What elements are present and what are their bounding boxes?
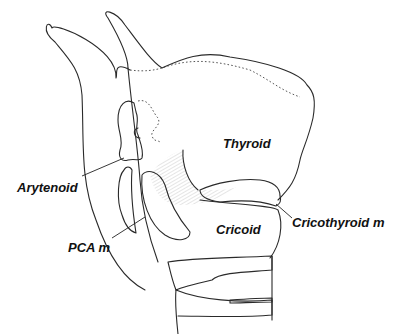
arytenoid-dotted	[138, 101, 160, 142]
label-cricoid: Cricoid	[216, 222, 261, 237]
label-pca: PCA m	[68, 240, 110, 255]
trachea-lower	[176, 290, 178, 334]
fan-shaded-region	[150, 150, 240, 205]
trachea-upper-ring	[168, 256, 272, 290]
thyroid-lamina-edge	[128, 68, 158, 262]
pca-muscle	[118, 167, 136, 233]
label-arytenoid: Arytenoid	[17, 180, 78, 195]
thyroid-cartilage-outline	[106, 12, 315, 200]
pca-leader	[112, 217, 145, 238]
label-thyroid: Thyroid	[223, 136, 271, 151]
larynx-diagram	[0, 0, 401, 334]
trachea-ring-line	[176, 290, 272, 317]
arytenoid-leader	[82, 158, 124, 176]
arytenoid-outline	[118, 101, 143, 160]
label-cricothyroid: Cricothyroid m	[292, 215, 384, 230]
